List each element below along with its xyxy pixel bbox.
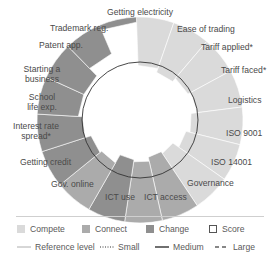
axis-label-school-life-exp: School life exp. bbox=[22, 92, 62, 112]
legend-large: Large bbox=[215, 241, 255, 253]
interest-line2: spread* bbox=[8, 131, 64, 141]
interest-line1: Interest rate bbox=[8, 121, 64, 131]
legend-small: Small bbox=[100, 241, 140, 253]
axis-label-interest-rate-spread: Interest rate spread* bbox=[8, 121, 64, 141]
legend-lines: Reference level Small Medium Large bbox=[0, 241, 278, 253]
legend-change-label: Change bbox=[159, 224, 189, 234]
connect-swatch bbox=[82, 225, 90, 233]
axis-label-ict-use: ICT use bbox=[105, 192, 135, 202]
legend-connect: Connect bbox=[82, 223, 127, 235]
legend-medium: Medium bbox=[155, 241, 204, 253]
legend-change: Change bbox=[146, 223, 189, 235]
legend-fills: Compete Connect Change Score bbox=[0, 223, 278, 235]
school-line2: life exp. bbox=[22, 102, 62, 112]
axis-label-getting-credit: Getting credit bbox=[20, 157, 71, 167]
axis-label-ict-access: ICT access bbox=[144, 192, 187, 202]
axis-label-starting-a-business: Starting a business bbox=[20, 64, 64, 84]
starting-line2: business bbox=[20, 74, 64, 84]
legend-small-label: Small bbox=[118, 242, 140, 252]
compete-swatch bbox=[17, 225, 25, 233]
axis-label-governance: Governance bbox=[187, 178, 234, 188]
starting-line1: Starting a bbox=[20, 64, 64, 74]
legend-medium-label: Medium bbox=[173, 242, 204, 252]
legend-compete-label: Compete bbox=[30, 224, 65, 234]
legend-separator bbox=[16, 216, 264, 217]
legend-large-label: Large bbox=[233, 242, 255, 252]
score-swatch bbox=[209, 225, 217, 233]
small-line-sample bbox=[100, 245, 114, 249]
axis-label-getting-electricity: Getting electricity bbox=[96, 7, 184, 17]
axis-label-gov-online: Gov. online bbox=[51, 179, 94, 189]
change-swatch bbox=[146, 225, 154, 233]
axis-label-ease-of-trading: Ease of trading bbox=[177, 24, 235, 34]
axis-label-logistics: Logistics bbox=[228, 95, 261, 105]
legend-score: Score bbox=[209, 223, 244, 235]
legend-reference-level: Reference level bbox=[17, 241, 95, 253]
axis-label-patent-app: Patent app. bbox=[39, 40, 83, 50]
axis-label-trademark-reg: Trademark reg. bbox=[50, 23, 108, 33]
legend-reference-label: Reference level bbox=[35, 242, 95, 252]
reference-line-sample bbox=[17, 245, 31, 249]
school-line1: School bbox=[22, 92, 62, 102]
axis-label-iso14001: ISO 14001 bbox=[211, 157, 252, 167]
axis-label-iso9001: ISO 9001 bbox=[226, 128, 262, 138]
medium-line-sample bbox=[155, 245, 169, 249]
legend-score-label: Score bbox=[222, 224, 244, 234]
axis-label-tariff-faced: Tariff faced* bbox=[221, 65, 266, 75]
legend-compete: Compete bbox=[17, 223, 65, 235]
axis-label-tariff-applied: Tariff applied* bbox=[201, 42, 253, 52]
legend-connect-label: Connect bbox=[95, 224, 127, 234]
large-line-sample bbox=[215, 245, 229, 249]
